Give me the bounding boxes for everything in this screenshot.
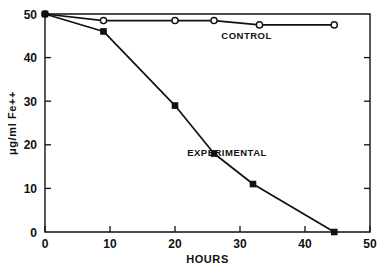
marker-experimental-4 [250, 181, 255, 186]
annotation-control: CONTROL [221, 30, 271, 41]
annotation-experimental: EXPERIMENTAL [187, 147, 267, 158]
x-tick-label-50: 50 [363, 237, 377, 251]
marker-control-1 [100, 17, 106, 23]
y-axis-title: μg/ml Fe++ [6, 91, 18, 155]
x-axis-title: HOURS [186, 253, 229, 265]
y-tick-label-0: 0 [30, 226, 37, 240]
marker-experimental-0 [42, 11, 47, 16]
x-axis-ticks [45, 226, 370, 232]
marker-control-5 [331, 22, 337, 28]
chart-figure: 01020304050 01020304050 CONTROLEXPERIMEN… [0, 0, 382, 266]
marker-experimental-5 [332, 229, 337, 234]
chart-plot-area: 01020304050 01020304050 CONTROLEXPERIMEN… [0, 0, 382, 266]
axis-spines [45, 14, 370, 232]
data-series-lines [45, 14, 334, 232]
y-axis-ticks [45, 58, 370, 189]
marker-experimental-2 [172, 103, 177, 108]
marker-control-3 [211, 17, 217, 23]
y-tick-label-40: 40 [24, 51, 38, 65]
x-axis-tick-labels: 01020304050 [42, 237, 377, 251]
y-tick-label-30: 30 [24, 95, 38, 109]
y-tick-label-10: 10 [24, 182, 38, 196]
x-tick-label-10: 10 [103, 237, 117, 251]
marker-experimental-1 [101, 29, 106, 34]
x-tick-label-20: 20 [168, 237, 182, 251]
axis-frame [45, 14, 370, 232]
y-tick-label-50: 50 [24, 8, 38, 22]
x-tick-label-30: 30 [233, 237, 247, 251]
x-tick-label-40: 40 [298, 237, 312, 251]
y-tick-label-20: 20 [24, 138, 38, 152]
x-tick-label-0: 0 [42, 237, 49, 251]
marker-control-2 [172, 17, 178, 23]
series-line-experimental [45, 14, 334, 232]
series-annotations: CONTROLEXPERIMENTAL [187, 30, 272, 157]
series-line-control [45, 14, 334, 25]
y-axis-tick-labels: 01020304050 [24, 8, 38, 240]
marker-control-4 [256, 22, 262, 28]
